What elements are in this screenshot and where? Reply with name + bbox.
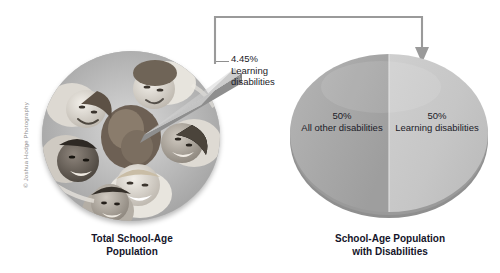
slice-percent-all-other: 50% (300, 110, 384, 122)
left-caption-line1: Total School-Age (62, 233, 202, 246)
slice-name-learning: Learning disabilities (394, 122, 480, 134)
figure-container: © Joshua Hodge Photography (0, 0, 500, 273)
left-caption-line2: Population (62, 246, 202, 259)
slice-name-all-other: All other disabilities (300, 122, 384, 134)
callout-percent: 4.45% (231, 53, 275, 65)
slice-label-learning-disabilities: 50% Learning disabilities (394, 110, 480, 133)
right-caption-line1: School-Age Population (300, 233, 480, 246)
photo-credit: © Joshua Hodge Photography (23, 97, 29, 193)
callout-label-line2: disabilities (231, 76, 275, 88)
right-chart-caption: School-Age Population with Disabilities (300, 233, 480, 258)
slice-percent-learning: 50% (394, 110, 480, 122)
right-caption-line2: with Disabilities (300, 246, 480, 259)
callout-label-line1: Learning (231, 65, 275, 77)
left-chart-caption: Total School-Age Population (62, 233, 202, 258)
disabilities-pie-chart (289, 53, 490, 221)
learning-disabilities-callout: 4.45% Learning disabilities (231, 53, 275, 88)
total-school-age-population-graphic (42, 51, 220, 221)
students-photo (42, 51, 220, 221)
slice-label-all-other-disabilities: 50% All other disabilities (300, 110, 384, 133)
callout-leader-line (216, 61, 229, 62)
